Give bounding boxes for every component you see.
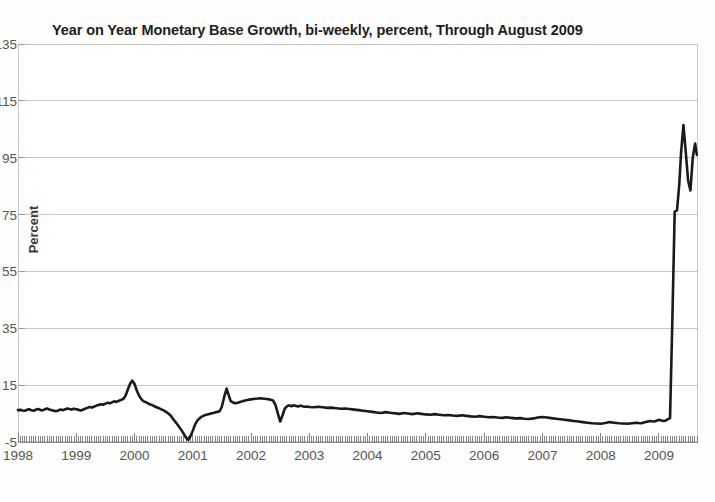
x-tick-label-2001: 2001: [165, 448, 221, 463]
y-tick-label-15: 15: [0, 378, 17, 393]
x-tick-label-1998: 1998: [0, 448, 46, 463]
y-tick-label-75: 75: [0, 207, 17, 222]
x-tick-label-2007: 2007: [514, 448, 570, 463]
y-tick-label-group: -51535557595115135: [18, 44, 62, 442]
x-tick-label-2004: 2004: [340, 448, 396, 463]
x-tick-label-2008: 2008: [573, 448, 629, 463]
y-tick-label-95: 95: [0, 150, 17, 165]
x-tick-label-2009: 2009: [631, 448, 687, 463]
x-tick-label-2003: 2003: [281, 448, 337, 463]
x-tick-label-1999: 1999: [48, 448, 104, 463]
x-tick-label-2000: 2000: [107, 448, 163, 463]
y-tick-label-55: 55: [0, 264, 17, 279]
x-tick-label-2006: 2006: [456, 448, 512, 463]
x-tick-label-2002: 2002: [223, 448, 279, 463]
x-tick-label-2005: 2005: [398, 448, 454, 463]
y-tick-label-35: 35: [0, 321, 17, 336]
y-tick-label-135: 135: [0, 37, 17, 52]
chart-figure: Year on Year Monetary Base Growth, bi-we…: [0, 0, 715, 502]
y-tick-label-115: 115: [0, 93, 17, 108]
chart-title: Year on Year Monetary Base Growth, bi-we…: [52, 22, 692, 38]
plot-frame: [18, 44, 698, 442]
